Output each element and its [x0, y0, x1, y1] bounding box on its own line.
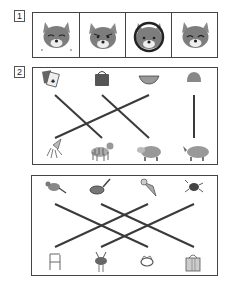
frying-pan-icon — [90, 179, 110, 194]
coin-purse-icon — [187, 72, 201, 82]
matching-panel-b — [31, 175, 218, 276]
matching-panel-a: ♣ — [32, 67, 218, 165]
rhino-icon — [183, 146, 209, 161]
hippo-icon — [137, 146, 161, 161]
playing-cards-icon: ♣ — [42, 70, 59, 87]
samurai-helmet-icon — [95, 252, 107, 272]
ice-cream-cone-icon — [141, 179, 156, 196]
fox-laughing-icon — [172, 13, 219, 59]
sparrow-icon — [46, 182, 67, 194]
panel-b-drawing — [32, 176, 219, 277]
chair-icon — [50, 254, 60, 270]
match-line-bag-hippo[interactable] — [102, 95, 149, 138]
fox-crying-icon — [33, 13, 80, 59]
fox-faces-row — [32, 12, 218, 58]
gift-box-icon — [186, 255, 200, 271]
beetle-icon — [185, 180, 203, 192]
squid-icon — [47, 139, 62, 158]
fox-circle-icon — [126, 13, 172, 59]
fox-cell-4[interactable] — [172, 13, 219, 57]
panel-a-drawing: ♣ — [33, 68, 219, 166]
question-number-1: 1 — [14, 10, 25, 22]
tiara-icon — [141, 256, 153, 266]
fox-cell-1[interactable] — [33, 13, 80, 57]
match-line-watermelon-squid[interactable] — [55, 95, 149, 138]
tiger-icon — [91, 143, 114, 162]
fox-cell-2[interactable] — [80, 13, 126, 57]
svg-text:♣: ♣ — [51, 78, 55, 84]
watermelon-icon — [139, 76, 159, 84]
handbag-icon — [95, 72, 109, 87]
fox-angry-icon — [80, 13, 126, 59]
fox-cell-3[interactable] — [126, 13, 172, 57]
match-line-cards-tiger[interactable] — [55, 95, 102, 138]
question-number-2: 2 — [14, 66, 25, 78]
